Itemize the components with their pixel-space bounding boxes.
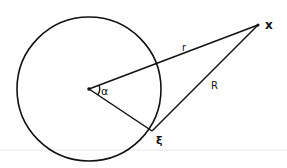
radius-segment bbox=[89, 89, 152, 131]
r-label: r bbox=[182, 42, 187, 53]
segment-r bbox=[89, 25, 258, 89]
angle-arc bbox=[98, 85, 100, 95]
xi-point-label: ξ bbox=[156, 134, 163, 147]
point-x bbox=[257, 24, 260, 27]
R-label: R bbox=[211, 80, 218, 91]
diagram-canvas: α x r R ξ bbox=[0, 0, 287, 168]
angle-label: α bbox=[101, 85, 108, 98]
segment-R bbox=[152, 25, 258, 131]
point-x-label: x bbox=[265, 18, 273, 32]
